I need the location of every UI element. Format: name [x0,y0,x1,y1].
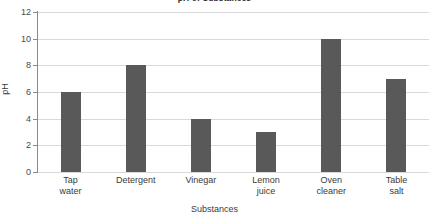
bar [321,39,341,172]
y-axis-tick-label: 6 [5,88,31,97]
gridline [38,12,429,13]
x-axis-category-label: Tapwater [38,175,104,197]
y-axis-tick-label: 10 [5,35,31,44]
bar [386,79,406,172]
y-axis-tick-labels: 121086420 [0,0,31,222]
y-axis-tick-label: 2 [5,141,31,150]
category-label-line: Detergent [103,175,169,186]
y-axis-tick-label: 4 [5,115,31,124]
y-axis-tick [33,145,38,146]
x-axis-category-label: Ovencleaner [298,175,364,197]
category-label-line: Lemon [233,175,299,186]
y-axis-tick-label: 0 [5,168,31,177]
category-label-line: juice [233,186,299,197]
gridline [38,65,429,66]
category-label-line: Oven [298,175,364,186]
chart-title: pH of Substances [0,0,429,3]
y-axis-tick [33,172,38,173]
bar [256,132,276,172]
gridline [38,119,429,120]
gridline [38,39,429,40]
y-axis-tick [33,92,38,93]
gridline [38,172,429,173]
y-axis-tick [33,119,38,120]
category-label-line: Vinegar [168,175,234,186]
bar [126,65,146,172]
category-label-line: water [38,186,104,197]
gridline [38,92,429,93]
y-axis-tick [33,39,38,40]
x-axis-category-label: Lemonjuice [233,175,299,197]
x-axis-category-label: Vinegar [168,175,234,186]
category-label-line: cleaner [298,186,364,197]
bar [191,119,211,172]
x-axis-category-label: Detergent [103,175,169,186]
gridline [38,145,429,146]
plot-area [38,12,429,172]
x-axis-category-label: Tablesalt [363,175,429,197]
y-axis-tick [33,65,38,66]
category-label-line: Table [363,175,429,186]
y-axis-tick [33,12,38,13]
ph-of-substances-bar-chart: pH of Substances pH 121086420 Substances… [0,0,429,222]
y-axis-tick-label: 12 [5,8,31,17]
y-axis-tick-label: 8 [5,61,31,70]
category-label-line: Tap [38,175,104,186]
x-axis-title: Substances [0,204,429,214]
category-label-line: salt [363,186,429,197]
bar [61,92,81,172]
